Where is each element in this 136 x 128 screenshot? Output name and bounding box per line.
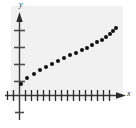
data-point (85, 46, 89, 50)
data-point (38, 68, 42, 72)
axes-layer (0, 0, 136, 128)
data-point (56, 59, 60, 63)
data-point (90, 43, 94, 47)
data-point (74, 51, 78, 55)
x-axis-label: x (127, 90, 131, 98)
y-axis-label: y (19, 1, 23, 9)
data-point (19, 82, 23, 86)
data-point (32, 72, 36, 76)
data-point (50, 62, 54, 66)
data-point (62, 56, 66, 60)
x-axis (5, 92, 126, 98)
data-point (44, 65, 48, 69)
data-point (68, 53, 72, 57)
data-point (80, 48, 84, 52)
data-point (95, 40, 99, 44)
data-point (25, 76, 29, 80)
data-point (114, 26, 118, 30)
data-point (104, 35, 108, 39)
y-axis (16, 12, 22, 120)
scatter-plot-figure: y x (0, 0, 136, 128)
data-point (100, 38, 104, 42)
